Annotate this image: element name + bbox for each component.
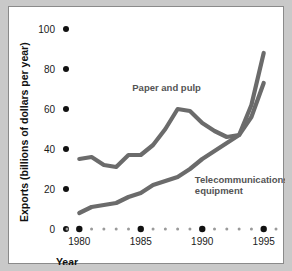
x-minor-tick-dot	[127, 228, 130, 231]
y-tick-dot	[63, 26, 69, 32]
y-tick-dot	[63, 66, 69, 72]
x-tick-dot	[138, 226, 144, 232]
y-axis-title: Exports (billions of dollars per year)	[18, 42, 30, 222]
series-annotation: equipment	[195, 185, 244, 196]
y-tick-dot	[63, 106, 69, 112]
y-tick-label: 40	[44, 144, 56, 155]
x-minor-tick-dot	[188, 228, 191, 231]
x-minor-tick-dot	[213, 228, 216, 231]
series-line	[79, 83, 263, 167]
x-minor-tick-dot	[225, 228, 228, 231]
x-minor-tick-dot	[66, 228, 69, 231]
x-minor-tick-dot	[90, 228, 93, 231]
chart-figure: Exports (billions of dollars per year) 0…	[8, 6, 284, 264]
x-axis-tick-dots	[66, 226, 278, 232]
x-tick-label: 1990	[191, 236, 214, 247]
x-tick-dot	[76, 226, 82, 232]
x-minor-tick-dot	[238, 228, 241, 231]
x-minor-tick-dot	[152, 228, 155, 231]
y-tick-label: 20	[44, 184, 56, 195]
x-tick-dot	[261, 226, 267, 232]
x-axis-tick-labels: 1980198519901995	[68, 236, 275, 247]
series-annotation: Telecommunications	[195, 174, 285, 185]
y-tick-label: 60	[44, 104, 56, 115]
x-minor-tick-dot	[250, 228, 253, 231]
x-tick-dot	[199, 226, 205, 232]
y-tick-label: 0	[49, 224, 55, 235]
y-tick-dot	[63, 186, 69, 192]
y-tick-label: 80	[44, 64, 56, 75]
y-tick-label: 100	[38, 24, 55, 35]
y-axis-title-text: Exports (billions of dollars per year)	[18, 42, 30, 222]
x-minor-tick-dot	[102, 228, 105, 231]
x-tick-label: 1985	[130, 236, 153, 247]
x-minor-tick-dot	[164, 228, 167, 231]
x-tick-label: 1980	[68, 236, 91, 247]
x-minor-tick-dot	[275, 228, 278, 231]
y-tick-dot	[63, 146, 69, 152]
y-axis-tick-dots	[63, 26, 69, 232]
y-axis-tick-labels: 020406080100	[38, 24, 55, 235]
x-tick-label: 1995	[253, 236, 276, 247]
exports-line-chart: Exports (billions of dollars per year) 0…	[9, 7, 285, 265]
x-minor-tick-dot	[176, 228, 179, 231]
series-annotation: Paper and pulp	[132, 82, 201, 93]
x-minor-tick-dot	[115, 228, 118, 231]
x-axis-title-text: Year	[56, 256, 78, 265]
